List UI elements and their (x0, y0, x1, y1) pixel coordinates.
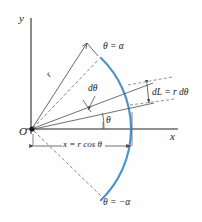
ray-theta (34, 103, 154, 129)
x-expression-label: x = r cos θ (63, 140, 102, 149)
polar-arc-diagram: y x O θ = α θ = −α dθ θ dL = r dθ r x = … (0, 0, 202, 222)
dL-expression-label: dL = r dθ (152, 88, 189, 98)
theta-alpha-label: θ = α (103, 42, 124, 52)
origin-label: O (19, 126, 27, 137)
x-axis-label: x (170, 131, 175, 142)
d-theta-label: dθ (88, 84, 97, 94)
ray-theta-alpha (33, 59, 99, 128)
d-theta-pointer (83, 96, 95, 112)
y-axis-label: y (19, 13, 24, 24)
diagram-canvas (0, 0, 202, 222)
theta-angle-arc (103, 113, 105, 129)
theta-label: θ (106, 116, 111, 126)
dL-bracket (147, 84, 149, 103)
theta-minus-alpha-label: θ = −α (103, 198, 130, 208)
